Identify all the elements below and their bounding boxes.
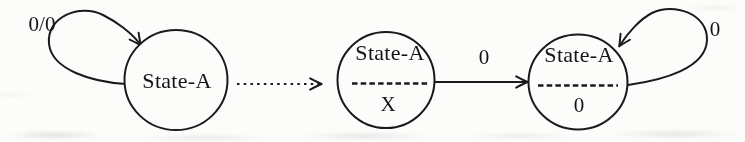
right-state-label: State-A bbox=[544, 42, 613, 67]
middle-state-output-label: X bbox=[380, 92, 395, 116]
left-self-loop-label: 0/0 bbox=[29, 12, 56, 36]
middle-state-label: State-A bbox=[355, 40, 424, 65]
right-self-loop bbox=[620, 9, 707, 85]
left-state-label: State-A bbox=[142, 68, 211, 93]
right-self-loop-label: 0 bbox=[710, 17, 721, 41]
fsm-figure: 0/0 State-A State-A X 0 0 State-A 0 bbox=[0, 0, 745, 142]
right-state-output-label: 0 bbox=[574, 93, 585, 117]
state-diagram-canvas: 0/0 State-A State-A X 0 0 State-A 0 bbox=[0, 0, 745, 142]
transition-middle-to-right-label: 0 bbox=[479, 45, 490, 69]
